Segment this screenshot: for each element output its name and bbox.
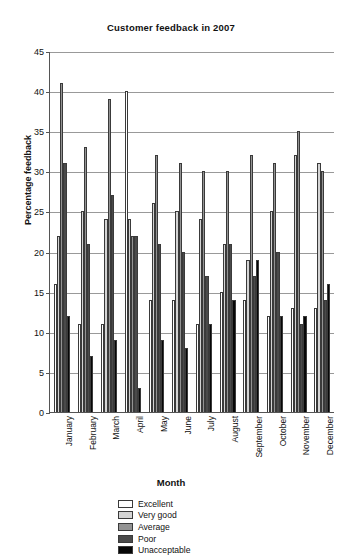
- x-axis-tick-labels: JanuaryFebruaryMarchAprilMayJuneJulyAugu…: [49, 413, 334, 475]
- bar-april-unacceptable[interactable]: [138, 388, 141, 412]
- bar-group-march: [97, 52, 121, 412]
- bar-group-july: [192, 52, 216, 412]
- x-axis-tick-slot: September: [239, 413, 263, 475]
- legend-swatch-icon: [118, 500, 133, 508]
- x-axis-tick-slot: November: [287, 413, 311, 475]
- x-axis-tick-slot: January: [49, 413, 73, 475]
- legend-item-poor[interactable]: Poor: [118, 533, 278, 545]
- x-axis-title: Month: [0, 477, 342, 488]
- x-axis-tick-slot: August: [215, 413, 239, 475]
- x-axis-tick-label-december: December: [325, 416, 335, 455]
- legend: ExcellentVery goodAveragePoorUnacceptabl…: [118, 498, 278, 556]
- legend-swatch-icon: [118, 546, 133, 554]
- bar-group-january: [50, 52, 74, 412]
- y-axis-tick-label: 40: [34, 87, 44, 97]
- x-axis-tick-slot: February: [73, 413, 97, 475]
- bar-february-unacceptable[interactable]: [90, 356, 93, 412]
- legend-label: Excellent: [138, 499, 173, 509]
- bar-july-unacceptable[interactable]: [209, 324, 212, 412]
- bar-november-unacceptable[interactable]: [303, 316, 306, 412]
- legend-item-average[interactable]: Average: [118, 521, 278, 533]
- y-axis-title: Percentage feedback: [23, 100, 33, 260]
- y-axis-tick-label: 30: [34, 167, 44, 177]
- legend-label: Average: [138, 522, 170, 532]
- x-axis-tick-slot: October: [263, 413, 287, 475]
- bar-group-september: [239, 52, 263, 412]
- y-axis-tick-label: 5: [39, 368, 44, 378]
- bar-may-unacceptable[interactable]: [161, 340, 164, 412]
- bar-group-october: [263, 52, 287, 412]
- y-axis-tick-label: 10: [34, 328, 44, 338]
- x-axis-tick-slot: December: [310, 413, 334, 475]
- y-axis-tick-label: 25: [34, 207, 44, 217]
- legend-item-excellent[interactable]: Excellent: [118, 498, 278, 510]
- legend-label: Very good: [138, 510, 177, 520]
- bar-december-unacceptable[interactable]: [327, 284, 330, 412]
- x-axis-tick-slot: June: [168, 413, 192, 475]
- bar-august-unacceptable[interactable]: [232, 300, 235, 412]
- bars-layer: [50, 52, 334, 412]
- plot-area: 051015202530354045: [49, 52, 334, 413]
- x-axis-tick-slot: March: [97, 413, 121, 475]
- y-axis-tick-label: 20: [34, 248, 44, 258]
- legend-swatch-icon: [118, 535, 133, 543]
- legend-swatch-icon: [118, 511, 133, 519]
- bar-october-unacceptable[interactable]: [280, 316, 283, 412]
- bar-group-december: [310, 52, 334, 412]
- bar-group-february: [74, 52, 98, 412]
- legend-item-very-good[interactable]: Very good: [118, 510, 278, 522]
- bar-group-april: [121, 52, 145, 412]
- bar-january-unacceptable[interactable]: [67, 316, 70, 412]
- bar-march-unacceptable[interactable]: [114, 340, 117, 412]
- y-axis-tick-label: 35: [34, 127, 44, 137]
- page-title: Customer feedback in 2007: [0, 22, 342, 33]
- bar-group-august: [216, 52, 240, 412]
- y-axis-tick-label: 45: [34, 47, 44, 57]
- legend-swatch-icon: [118, 523, 133, 531]
- legend-label: Poor: [138, 534, 156, 544]
- x-axis-tick-slot: July: [192, 413, 216, 475]
- legend-label: Unacceptable: [138, 545, 191, 555]
- y-axis-tick-label: 0: [39, 408, 44, 418]
- bar-april-poor[interactable]: [134, 236, 137, 412]
- x-axis-tick-slot: May: [144, 413, 168, 475]
- bar-june-unacceptable[interactable]: [185, 348, 188, 412]
- bar-september-unacceptable[interactable]: [256, 260, 259, 412]
- x-axis-tick-slot: April: [120, 413, 144, 475]
- bar-group-november: [287, 52, 311, 412]
- bar-group-june: [168, 52, 192, 412]
- bar-group-may: [145, 52, 169, 412]
- y-axis-tick-label: 15: [34, 288, 44, 298]
- legend-item-unacceptable[interactable]: Unacceptable: [118, 544, 278, 556]
